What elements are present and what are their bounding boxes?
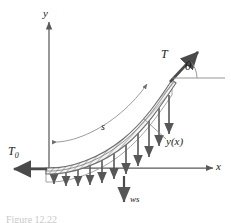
- tension-label: T: [161, 48, 168, 60]
- angle-label: θ: [185, 61, 192, 72]
- cable-band: [46, 80, 176, 174]
- base-tension-label: T0: [8, 145, 19, 160]
- tension-arrow: [170, 52, 198, 82]
- base-tension-symbol: T: [8, 144, 15, 158]
- weight-label: ws: [130, 195, 140, 204]
- figure-caption: Figure 12.22: [6, 214, 57, 223]
- base-tension-subscript: 0: [15, 151, 19, 160]
- x-axis-label: x: [216, 161, 221, 172]
- diagram-canvas: [0, 0, 231, 223]
- figure-container: y x T θ T0 s y(x) ws Figure 12.22: [0, 0, 231, 223]
- y-axis-label: y: [43, 8, 48, 19]
- curve-label: y(x): [166, 136, 183, 147]
- curve-leader-line: [143, 118, 166, 139]
- cable-curve: [46, 81, 174, 171]
- arc-length-label: s: [101, 122, 105, 132]
